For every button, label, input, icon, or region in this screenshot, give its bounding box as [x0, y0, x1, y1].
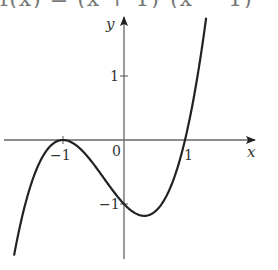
x-tick-label-1: 1	[184, 147, 193, 163]
y-axis-label: y	[105, 15, 115, 33]
y-tick-label-1: 1	[110, 68, 119, 84]
y-tick-label-neg1: −1	[99, 196, 120, 212]
origin-label: 0	[112, 143, 121, 159]
function-curve	[14, 19, 206, 255]
function-plot: y x 0 −1 1 1 −1	[0, 0, 278, 270]
x-tick-label-neg1: −1	[50, 147, 71, 163]
x-axis-label: x	[247, 143, 256, 161]
